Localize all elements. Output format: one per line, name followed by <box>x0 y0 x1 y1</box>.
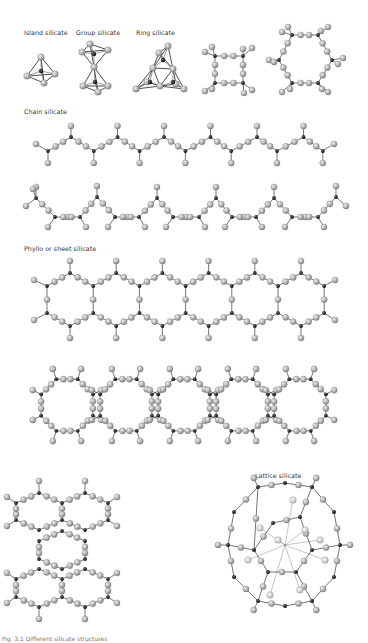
oxygen-atom <box>39 201 45 207</box>
silicon-atom <box>276 311 280 315</box>
oxygen-atom <box>281 381 287 387</box>
silicon-atom <box>322 311 326 315</box>
silicon-atom <box>113 377 117 381</box>
oxygen-atom <box>153 139 159 145</box>
oxygen-atom <box>213 319 219 325</box>
oxygen-atom <box>207 405 213 411</box>
oxygen-atom <box>91 64 98 71</box>
oxygen-atom <box>142 208 148 214</box>
oxygen-atom <box>147 417 153 423</box>
oxygen-atom <box>107 423 113 429</box>
oxygen-atom <box>137 366 143 372</box>
oxygen-atom <box>139 381 145 387</box>
oxygen-atom <box>145 143 151 149</box>
oxygen-atom <box>214 139 220 145</box>
oxygen-atom <box>290 497 297 504</box>
silicon-atom <box>106 577 110 581</box>
oxygen-atom <box>51 520 57 526</box>
oxygen-atom <box>114 523 120 529</box>
oxygen-atom <box>165 43 172 50</box>
silicon-atom <box>37 528 41 532</box>
oxygen-atom <box>306 274 312 280</box>
oxygen-atom <box>148 201 154 207</box>
silicon-atom <box>53 215 57 219</box>
oxygen-atom <box>44 559 50 565</box>
silicon-atom <box>310 599 314 603</box>
silicon-atom <box>226 543 230 547</box>
oxygen-atom <box>213 274 219 280</box>
oxygen-atom <box>253 438 259 444</box>
oxygen-atom <box>161 123 167 129</box>
oxygen-atom <box>243 586 249 592</box>
silicon-atom <box>256 599 260 603</box>
oxygen-atom <box>331 417 337 423</box>
oxygen-atom <box>285 24 291 30</box>
oxygen-atom <box>36 550 42 556</box>
oxygen-atom <box>205 417 211 423</box>
oxygen-atom <box>109 366 115 372</box>
silicon-atom <box>322 284 326 288</box>
oxygen-atom <box>285 40 291 46</box>
oxygen-atom <box>221 80 227 86</box>
oxygen-atom <box>334 525 340 531</box>
oxygen-atom <box>159 258 165 264</box>
oxygen-atom <box>13 511 19 517</box>
oxygen-atom <box>202 208 208 214</box>
oxygen-atom <box>43 535 49 541</box>
oxygen-atom <box>82 616 88 622</box>
oxygen-atom <box>160 418 166 424</box>
oxygen-atom <box>121 274 127 280</box>
oxygen-atom <box>313 278 319 284</box>
oxygen-atom <box>268 482 274 488</box>
oxygen-atom <box>60 139 66 145</box>
silicon-atom <box>338 543 342 547</box>
oxygen-atom <box>238 544 244 550</box>
oxygen-atom <box>149 405 155 411</box>
silicon-atom <box>39 392 43 396</box>
oxygen-atom <box>324 64 330 70</box>
silicon-atom <box>161 271 165 275</box>
oxygen-atom <box>283 207 289 213</box>
oxygen-atom <box>95 89 102 96</box>
oxygen-atom <box>213 406 219 412</box>
oxygen-atom <box>52 143 58 149</box>
silicon-atom <box>214 392 218 396</box>
bonds-layer <box>7 27 350 619</box>
oxygen-atom <box>91 160 97 166</box>
silicon-atom <box>332 575 336 579</box>
oxygen-atom <box>38 54 45 61</box>
silicon-atom <box>83 567 87 571</box>
oxygen-atom <box>313 143 319 149</box>
silicon-atom <box>83 557 87 561</box>
oxygen-atom <box>144 314 150 320</box>
silicon-atom <box>330 58 334 62</box>
oxygen-atom <box>168 139 174 145</box>
oxygen-atom <box>74 524 80 530</box>
silicon-atom <box>76 429 80 433</box>
oxygen-atom <box>102 386 108 392</box>
oxygen-atom <box>306 80 312 86</box>
oxygen-atom <box>79 49 86 56</box>
oxygen-atom <box>74 493 80 499</box>
oxygen-atom <box>225 366 231 372</box>
oxygen-atom <box>67 563 73 569</box>
oxygen-atom <box>128 278 134 284</box>
silicon-atom <box>91 311 95 315</box>
oxygen-atom <box>83 143 89 149</box>
oxygen-atom <box>128 214 134 220</box>
oxygen-atom <box>44 524 50 530</box>
oxygen-atom <box>114 123 120 129</box>
oxygen-atom <box>59 511 65 517</box>
silicon-atom <box>45 311 49 315</box>
silicon-atom <box>93 80 97 84</box>
oxygen-atom <box>265 398 271 404</box>
oxygen-atom <box>205 387 211 393</box>
oxygen-atom <box>301 428 307 434</box>
oxygen-atom <box>253 366 259 372</box>
silicon-atom <box>197 215 201 219</box>
silicon-atom <box>272 414 276 418</box>
silicon-atom <box>54 377 58 381</box>
silicon-atom <box>214 196 218 200</box>
oxygen-atom <box>59 582 65 588</box>
silicon-atom <box>60 501 64 505</box>
